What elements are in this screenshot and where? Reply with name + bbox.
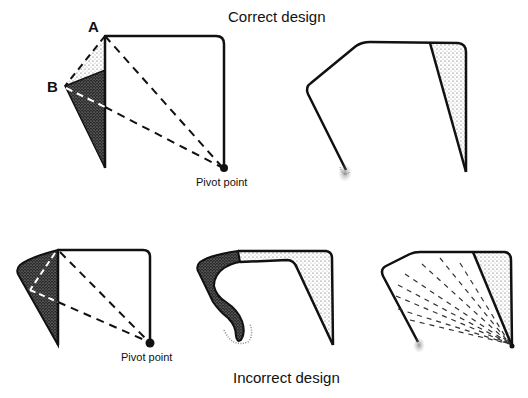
- pivot-point-marker: [220, 164, 228, 172]
- dashed-line-b-pivot: [105, 107, 223, 168]
- dashed-line-top-pivot: [60, 252, 149, 342]
- tip-glow: [338, 164, 352, 182]
- dark-shaded-region: [17, 250, 58, 345]
- title-correct-design: Correct design: [228, 8, 326, 25]
- incorrect-design-geometry: [17, 250, 154, 348]
- point-label-b: B: [47, 78, 58, 95]
- correct-design-geometry: [65, 36, 228, 172]
- incorrect-design-result-radiating: [382, 252, 515, 353]
- title-incorrect-design: Incorrect design: [233, 369, 340, 386]
- tip-glow-bottom: [413, 337, 425, 353]
- dashed-line-a-pivot: [105, 36, 223, 168]
- dashed-line-mid-pivot: [58, 302, 149, 342]
- light-shaded-band: [238, 251, 333, 345]
- diagram-canvas: [0, 0, 528, 398]
- pivot-label-top: Pivot point: [196, 176, 247, 188]
- point-label-a: A: [88, 18, 99, 35]
- pivot-point-marker-bottom: [146, 339, 155, 348]
- dark-shaded-triangle: [65, 70, 105, 168]
- correct-design-result: [307, 42, 466, 182]
- incorrect-design-result-deformed: [197, 251, 333, 345]
- dark-shaded-band: [197, 251, 244, 341]
- pivot-label-bottom: Pivot point: [121, 351, 172, 363]
- pivot-dot-radiating: [510, 344, 515, 349]
